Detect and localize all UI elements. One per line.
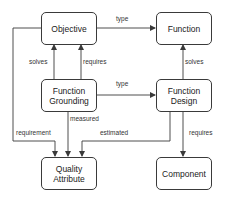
edge-label-grounding-measured: measured bbox=[70, 115, 99, 123]
edge-label-objective-type: type bbox=[116, 15, 128, 23]
node-function-grounding-label: Function Grounding bbox=[49, 86, 89, 106]
node-objective[interactable]: Objective bbox=[41, 12, 97, 45]
node-quality-attribute[interactable]: Quality Attribute bbox=[41, 157, 97, 190]
node-component-label: Component bbox=[162, 169, 206, 179]
diagram-canvas: Objective Function Function Grounding Fu… bbox=[0, 0, 227, 201]
node-component[interactable]: Component bbox=[156, 157, 212, 190]
edge-label-design-requires: requires bbox=[189, 129, 212, 137]
node-function-design[interactable]: Function Design bbox=[156, 79, 212, 112]
edge-label-design-estimated: estimated bbox=[100, 129, 128, 137]
node-objective-label: Objective bbox=[51, 24, 86, 34]
node-function-grounding[interactable]: Function Grounding bbox=[41, 79, 97, 112]
edge-label-grounding-requires: requires bbox=[83, 58, 106, 66]
edge-label-grounding-solves: solves bbox=[29, 58, 47, 66]
node-function[interactable]: Function bbox=[156, 12, 212, 45]
edge-label-grounding-type: type bbox=[116, 80, 128, 88]
edge-label-design-solves: solves bbox=[185, 58, 203, 66]
node-function-design-label: Function Design bbox=[168, 86, 201, 106]
node-function-label: Function bbox=[168, 24, 201, 34]
node-quality-attribute-label: Quality Attribute bbox=[53, 164, 85, 184]
edge-label-objective-requirement: requirement bbox=[16, 129, 51, 137]
